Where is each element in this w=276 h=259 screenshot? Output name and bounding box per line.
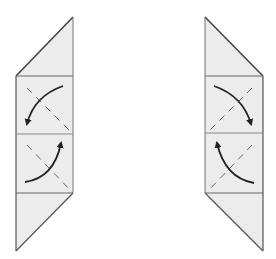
right-figure [205,17,263,251]
right-paper-shape [205,17,263,251]
origami-diagram [0,0,276,259]
left-figure [16,17,73,251]
